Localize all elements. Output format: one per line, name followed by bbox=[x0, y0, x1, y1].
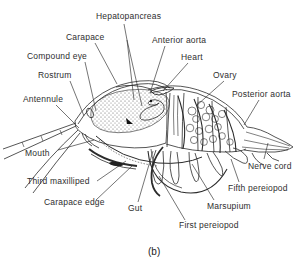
leader-antennule bbox=[56, 105, 79, 128]
label-gut: Gut bbox=[128, 203, 142, 213]
stomach-dot bbox=[150, 100, 152, 102]
egg bbox=[201, 139, 208, 146]
egg bbox=[202, 113, 210, 121]
label-hepatopancreas: Hepatopancreas bbox=[96, 11, 161, 21]
anatomy-diagram: Hepatopancreas Carapace Anterior aorta C… bbox=[0, 0, 307, 273]
label-heart: Heart bbox=[181, 52, 203, 62]
figure-caption: (b) bbox=[148, 246, 160, 257]
label-first-pereiopod: First pereiopod bbox=[179, 220, 239, 230]
leader-carapace-edge bbox=[96, 166, 132, 200]
egg bbox=[190, 136, 197, 143]
label-ovary: Ovary bbox=[213, 70, 237, 80]
second-pereiopod-shape bbox=[170, 151, 179, 184]
egg bbox=[196, 128, 203, 135]
label-compound-eye: Compound eye bbox=[27, 51, 87, 61]
egg bbox=[227, 139, 233, 145]
label-rostrum: Rostrum bbox=[38, 70, 72, 80]
label-mouth: Mouth bbox=[25, 148, 50, 158]
leader-nerve-cord bbox=[264, 143, 268, 159]
egg bbox=[205, 125, 213, 133]
egg bbox=[188, 107, 196, 115]
label-posterior-aorta: Posterior aorta bbox=[232, 89, 291, 99]
leader-ovary bbox=[196, 81, 224, 106]
label-fifth-pereiopod: Fifth pereiopod bbox=[228, 183, 288, 193]
tail-gut-line bbox=[244, 140, 289, 148]
anterior-aorta-vessel bbox=[116, 85, 151, 89]
leader-mouth bbox=[58, 140, 94, 150]
label-anterior-aorta: Anterior aorta bbox=[152, 35, 206, 45]
label-nerve-cord: Nerve cord bbox=[248, 161, 292, 171]
leader-fifth-pereiopod bbox=[231, 159, 239, 182]
fourth-pereiopod-shape bbox=[207, 152, 223, 176]
hepatopancreas-region bbox=[91, 89, 170, 132]
label-marsupium: Marsupium bbox=[207, 201, 251, 211]
tail-top-edge bbox=[247, 127, 293, 147]
head-front-edge bbox=[82, 133, 92, 146]
egg bbox=[218, 110, 225, 117]
nerve-cord-line bbox=[242, 147, 288, 150]
antenna-segment-ticks bbox=[22, 130, 62, 147]
label-third-maxilliped: Third maxilliped bbox=[27, 176, 90, 186]
leader-anterior-aorta bbox=[150, 46, 165, 93]
leader-carapace bbox=[95, 43, 117, 84]
antenna-1 bbox=[3, 123, 76, 149]
esophagus-lines bbox=[174, 95, 179, 136]
egg bbox=[193, 116, 200, 123]
egg bbox=[186, 124, 194, 132]
marsupium-outline bbox=[148, 151, 227, 193]
label-antennule: Antennule bbox=[23, 94, 63, 104]
label-carapace-edge: Carapace edge bbox=[44, 197, 105, 207]
label-carapace: Carapace bbox=[66, 32, 104, 42]
leader-rostrum bbox=[70, 81, 84, 116]
egg bbox=[197, 101, 204, 108]
leader-marsupium bbox=[192, 164, 214, 200]
leader-posterior-aorta bbox=[244, 100, 259, 125]
